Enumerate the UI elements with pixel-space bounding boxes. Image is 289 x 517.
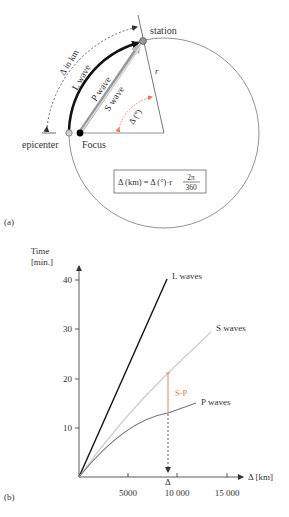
- y-tick-20: 20: [63, 374, 73, 384]
- s-p-label: S-P: [175, 388, 188, 398]
- l-waves-curve: [79, 279, 167, 477]
- panel-b-travel-time-chart: 10 20 30 40 5000 10 000 15 000 Time [min…: [4, 246, 273, 502]
- x-tick-5000: 5000: [119, 488, 138, 498]
- epicenter-label: epicenter: [22, 139, 59, 150]
- s-waves-label: S waves: [216, 323, 246, 333]
- station-marker: [140, 38, 147, 45]
- panel-b-label: (b): [4, 492, 15, 502]
- figure-canvas: station epicenter Focus r Δ in km L wave…: [0, 0, 289, 517]
- epicenter-marker: [66, 130, 72, 136]
- formula-denominator: 360: [185, 183, 197, 192]
- panel-a-label: (a): [4, 217, 14, 227]
- panel-a-earth-diagram: station epicenter Focus r Δ in km L wave…: [4, 15, 259, 228]
- y-tick-40: 40: [63, 275, 73, 285]
- angle-label: Δ (°): [126, 107, 143, 126]
- x-ticks: [128, 473, 227, 477]
- p-waves-curve: [79, 403, 196, 477]
- station-label: station: [150, 25, 177, 36]
- focus-label: Focus: [82, 139, 106, 150]
- l-waves-label: L waves: [172, 271, 202, 281]
- delta-marker: Δ: [165, 477, 171, 487]
- y-tick-10: 10: [63, 423, 73, 433]
- x-axis-label: Δ [km]: [248, 472, 273, 482]
- p-waves-label: P waves: [201, 397, 231, 407]
- x-tick-15000: 15 000: [215, 488, 240, 498]
- formula-numerator: 2π: [187, 173, 195, 182]
- radius-label: r: [155, 66, 159, 76]
- y-axis-label-time: Time: [31, 246, 50, 256]
- y-tick-30: 30: [63, 324, 73, 334]
- formula-lhs: Δ (km) = Δ (°)·r: [118, 177, 172, 187]
- formula-box: Δ (km) = Δ (°)·r 2π 360: [114, 170, 206, 193]
- focus-marker: [77, 130, 84, 137]
- x-tick-10000: 10 000: [165, 488, 190, 498]
- y-axis-label-unit: [min.]: [31, 257, 53, 267]
- y-ticks: [75, 280, 79, 428]
